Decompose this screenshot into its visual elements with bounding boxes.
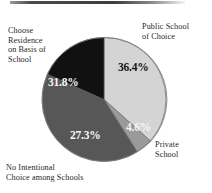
pie-value-no-intentional-choice: 27.3%: [70, 129, 101, 141]
pie-value-public-school-of-choice: 36.4%: [118, 61, 149, 73]
chart-page: 36.4% 4.6% 27.3% 31.8% Choose Residence …: [0, 0, 212, 193]
pie-label-public-school-of-choice: Public School of Choice: [142, 22, 208, 41]
pie-label-private-school: Private School: [155, 140, 209, 159]
pie-chart: 36.4% 4.6% 27.3% 31.8% Choose Residence …: [0, 0, 212, 193]
pie-value-choose-residence: 31.8%: [48, 76, 79, 88]
pie-label-no-intentional-choice: No Intentional Choice among Schools: [6, 163, 134, 182]
pie-label-choose-residence: Choose Residence on Basis of School: [8, 26, 70, 64]
pie-value-private-school: 4.6%: [126, 121, 151, 133]
